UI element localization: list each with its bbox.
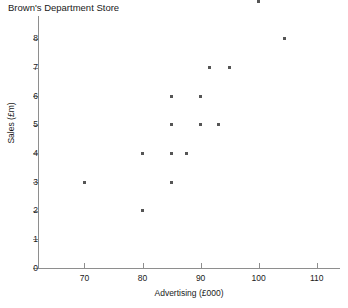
data-point (141, 152, 144, 155)
data-point (170, 181, 173, 184)
x-tick-label-80: 80 (128, 274, 158, 283)
data-point (185, 152, 188, 155)
scatter-chart: Brown's Department Store 012345678 70809… (0, 0, 348, 308)
y-tick-label-5: 5 (14, 120, 38, 129)
data-point (83, 181, 86, 184)
data-point (170, 123, 173, 126)
data-point (170, 95, 173, 98)
y-tick-label-1: 1 (14, 235, 38, 244)
x-tick-80 (143, 263, 144, 268)
x-tick-110 (317, 263, 318, 268)
y-axis-label: Sales (£m) (6, 88, 16, 158)
y-tick-label-8: 8 (14, 34, 38, 43)
data-point (199, 95, 202, 98)
data-point (170, 152, 173, 155)
x-tick-label-100: 100 (244, 274, 274, 283)
y-tick-label-3: 3 (14, 178, 38, 187)
x-axis-label: Advertising (£000) (38, 288, 340, 298)
plot-area: 012345678 708090100110 (0, 0, 348, 308)
x-tick-label-90: 90 (186, 274, 216, 283)
y-tick-label-6: 6 (14, 92, 38, 101)
x-axis-line (38, 268, 340, 269)
x-tick-90 (201, 263, 202, 268)
data-point (199, 123, 202, 126)
x-tick-70 (84, 263, 85, 268)
x-tick-100 (259, 263, 260, 268)
y-axis-line (38, 16, 39, 268)
data-point (141, 209, 144, 212)
y-tick-label-4: 4 (14, 149, 38, 158)
data-point (257, 0, 260, 3)
y-tick-label-7: 7 (14, 63, 38, 72)
y-tick-label-0: 0 (14, 264, 38, 273)
x-tick-label-110: 110 (302, 274, 332, 283)
y-tick-label-2: 2 (14, 206, 38, 215)
data-point (217, 123, 220, 126)
x-tick-label-70: 70 (69, 274, 99, 283)
data-point (208, 66, 211, 69)
data-point (228, 66, 231, 69)
data-point (283, 37, 286, 40)
